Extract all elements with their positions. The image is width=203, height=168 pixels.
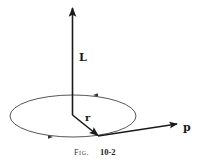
angular-momentum-diagram: L r p Fig. 10-2 [0, 0, 203, 168]
caption-number: 10-2 [100, 147, 116, 157]
caption-prefix: Fig. [74, 148, 89, 157]
p-label: p [183, 121, 191, 134]
r-label: r [85, 112, 91, 123]
L-label: L [79, 51, 87, 64]
p-vector-arrow [98, 124, 177, 136]
